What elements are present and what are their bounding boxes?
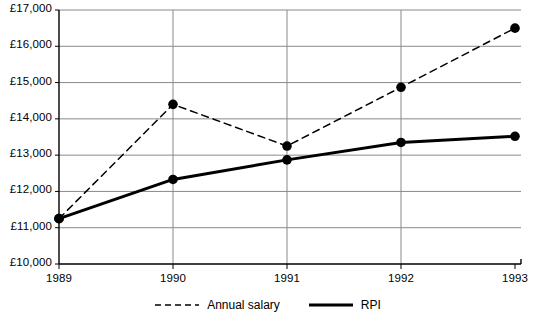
- legend-label: RPI: [361, 298, 381, 312]
- x-axis-label: 1993: [485, 272, 535, 284]
- data-point: [168, 100, 178, 110]
- x-axis-label: 1991: [257, 272, 317, 284]
- data-point: [396, 138, 406, 148]
- y-axis-label: £12,000: [0, 183, 52, 195]
- x-axis-label: 1989: [29, 272, 89, 284]
- legend-label: Annual salary: [207, 298, 280, 312]
- data-point: [282, 155, 292, 165]
- data-point: [396, 82, 406, 92]
- y-axis-label: £16,000: [0, 38, 52, 50]
- legend-item-annual-salary[interactable]: Annual salary: [154, 298, 280, 312]
- legend-swatch-dashed: [154, 300, 200, 310]
- legend-swatch-solid: [308, 300, 354, 310]
- x-axis-label: 1992: [371, 272, 431, 284]
- legend-item-rpi[interactable]: RPI: [308, 298, 381, 312]
- axis-lines: [59, 10, 521, 264]
- data-point: [168, 175, 178, 185]
- data-point: [510, 131, 520, 141]
- data-point: [510, 23, 520, 33]
- y-axis-label: £10,000: [0, 256, 52, 268]
- chart-legend: Annual salaryRPI: [0, 298, 535, 312]
- y-axis-label: £15,000: [0, 75, 52, 87]
- y-axis-label: £13,000: [0, 147, 52, 159]
- chart-container: £10,000£11,000£12,000£13,000£14,000£15,0…: [0, 0, 535, 322]
- x-axis-label: 1990: [143, 272, 203, 284]
- y-axis-label: £14,000: [0, 111, 52, 123]
- y-axis-label: £17,000: [0, 2, 52, 14]
- data-point: [54, 214, 64, 224]
- y-axis-label: £11,000: [0, 220, 52, 232]
- gridlines: [59, 10, 521, 264]
- data-point: [282, 141, 292, 151]
